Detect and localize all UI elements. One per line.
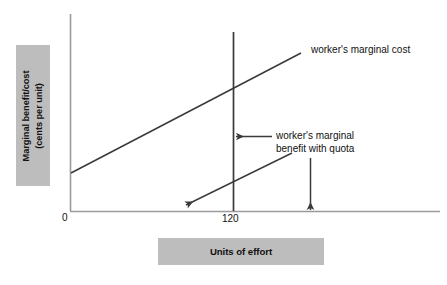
annotation-marginal-cost: worker's marginal cost: [311, 44, 410, 57]
y-axis-label-panel: Marginal benefit/cost (cents per unit): [16, 45, 50, 186]
annotation-marginal-benefit: worker's marginal benefit with quota: [276, 130, 354, 155]
y-axis-label-line2: (cents per unit): [34, 83, 44, 149]
chart-figure: Marginal benefit/cost (cents per unit) U…: [0, 0, 447, 285]
x-tick-label-120: 120: [222, 213, 239, 224]
annotation-marginal-benefit-line2: benefit with quota: [276, 143, 354, 154]
annotation-marginal-benefit-line1: worker's marginal: [276, 130, 354, 141]
x-tick-label-0: 0: [62, 212, 68, 223]
annotation-marginal-cost-line1: worker's marginal cost: [311, 44, 410, 55]
diagonal-leader-arrow: [186, 153, 292, 205]
marginal-cost-curve: [71, 53, 301, 173]
x-axis-label-panel: Units of effort: [158, 238, 324, 265]
y-axis-label-text: Marginal benefit/cost (cents per unit): [20, 70, 46, 161]
y-axis-label-line1: Marginal benefit/cost: [21, 70, 31, 161]
x-axis-label-text: Units of effort: [210, 246, 272, 257]
